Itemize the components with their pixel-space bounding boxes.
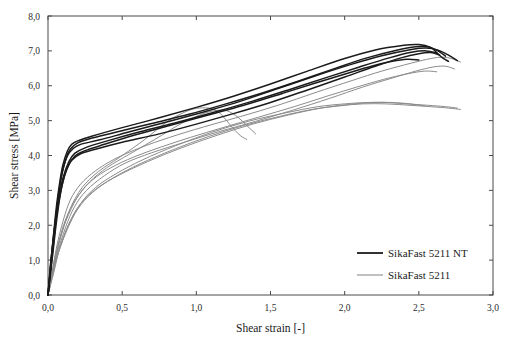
curve-nt-3 [48, 46, 446, 295]
y-tick-label: 8,0 [28, 12, 40, 22]
y-tick-label: 3,0 [28, 186, 40, 196]
curve-nt-5 [48, 51, 437, 295]
x-tick-label: 1,5 [265, 303, 277, 313]
y-tick-label: 1,0 [28, 256, 40, 266]
y-tick-label: 0,0 [28, 291, 40, 301]
curve-std-1 [48, 57, 460, 295]
shear-stress-strain-chart: 0,00,51,01,52,02,53,0 0,01,02,03,04,05,0… [0, 0, 510, 350]
y-tick-label: 4,0 [28, 151, 40, 161]
x-tick-labels: 0,00,51,01,52,02,53,0 [42, 303, 499, 313]
y-tick-label: 6,0 [28, 81, 40, 91]
chart-legend: SikaFast 5211 NTSikaFast 5211 [357, 247, 468, 281]
x-tick-label: 1,0 [190, 303, 202, 313]
x-tick-label: 2,0 [339, 303, 351, 313]
x-tick-label: 2,5 [413, 303, 425, 313]
y-tick-labels: 0,01,02,03,04,05,06,07,08,0 [28, 12, 40, 301]
plot-svg: 0,00,51,01,52,02,53,0 0,01,02,03,04,05,0… [0, 0, 510, 350]
x-tick-label: 3,0 [487, 303, 499, 313]
curve-std-8 [48, 102, 425, 295]
curve-nt-6 [48, 59, 419, 295]
y-tick-label: 7,0 [28, 46, 40, 56]
x-axis-title: Shear strain [-] [236, 322, 305, 334]
legend-label-2: SikaFast 5211 [388, 269, 450, 281]
legend-label-1: SikaFast 5211 NT [388, 247, 468, 259]
x-tick-label: 0,0 [42, 303, 54, 313]
curve-std-5 [48, 110, 256, 295]
y-tick-label: 5,0 [28, 116, 40, 126]
y-axis-title: Shear stress [MPa] [8, 112, 20, 199]
y-tick-label: 2,0 [28, 221, 40, 231]
x-tick-label: 0,5 [116, 303, 128, 313]
